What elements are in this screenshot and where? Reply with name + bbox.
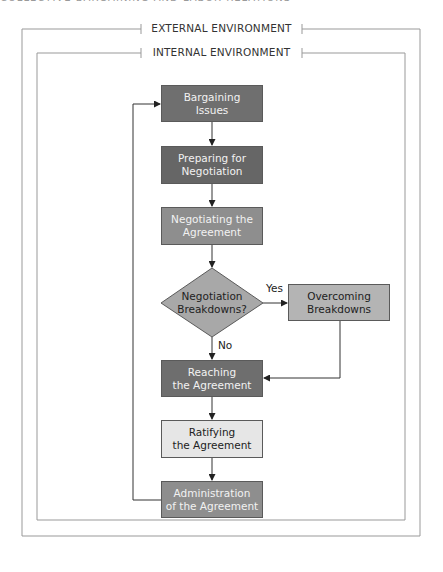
node-reaching-the-agreement: Reachingthe Agreement [161, 360, 263, 397]
node-bargaining-issues: BargainingIssues [161, 85, 263, 122]
edge-label-no: No [218, 339, 232, 351]
internal-environment-label: INTERNAL ENVIRONMENT [141, 46, 302, 58]
node-overcoming-breakdowns: OvercomingBreakdowns [288, 284, 390, 321]
node-negotiation-breakdowns-decision: Negotiation Breakdowns? [161, 290, 263, 316]
node-ratifying-the-agreement: Ratifyingthe Agreement [161, 420, 263, 458]
node-administration-of-the-agreement: Administrationof the Agreement [161, 481, 263, 518]
node-negotiating-the-agreement: Negotiating theAgreement [161, 207, 263, 245]
external-environment-label: EXTERNAL ENVIRONMENT [141, 22, 302, 34]
node-preparing-for-negotiation: Preparing forNegotiation [161, 146, 263, 184]
edge-label-yes: Yes [266, 282, 283, 294]
